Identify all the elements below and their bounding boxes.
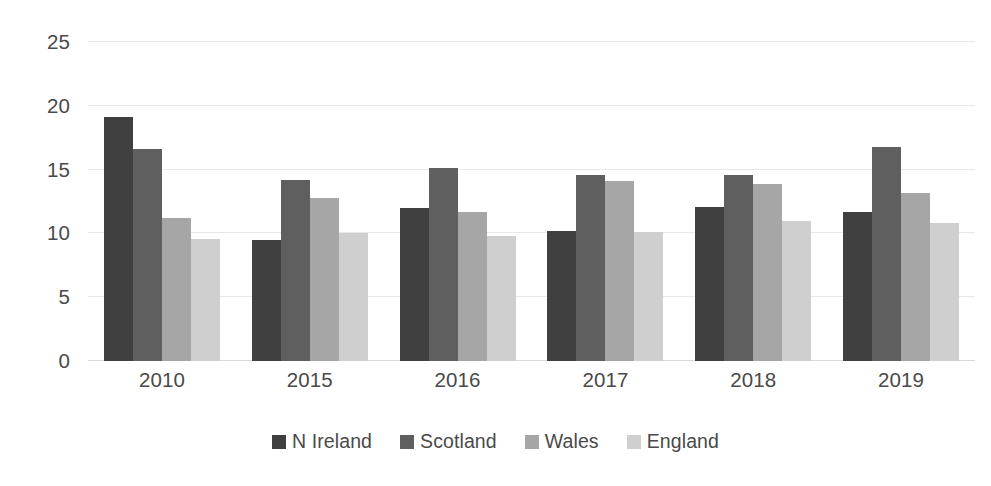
bar-england-2017[interactable] bbox=[634, 232, 663, 361]
legend-item-scotland[interactable]: Scotland bbox=[400, 430, 497, 453]
legend-label: N Ireland bbox=[292, 430, 372, 453]
bar-n-ireland-2016[interactable] bbox=[400, 208, 429, 361]
y-axis: 0510152025 bbox=[0, 0, 88, 486]
legend-label: Scotland bbox=[420, 430, 497, 453]
bar-n-ireland-2015[interactable] bbox=[252, 240, 281, 361]
x-tick-label-2018: 2018 bbox=[679, 368, 827, 408]
bar-group-2018 bbox=[679, 42, 827, 361]
bar-england-2010[interactable] bbox=[191, 239, 220, 361]
bar-group-2019 bbox=[827, 42, 975, 361]
bar-groups bbox=[88, 42, 975, 361]
bar-group-2016 bbox=[384, 42, 532, 361]
bar-wales-2019[interactable] bbox=[901, 193, 930, 361]
bar-scotland-2015[interactable] bbox=[281, 180, 310, 361]
bar-slots bbox=[679, 42, 827, 361]
x-axis: 201020152016201720182019 bbox=[88, 368, 975, 408]
x-tick-label-2019: 2019 bbox=[827, 368, 975, 408]
bar-slots bbox=[384, 42, 532, 361]
y-tick-label-15: 15 bbox=[47, 158, 70, 182]
legend-item-wales[interactable]: Wales bbox=[525, 430, 599, 453]
legend-swatch-icon bbox=[272, 435, 286, 449]
bar-slots bbox=[531, 42, 679, 361]
plot-area bbox=[88, 42, 975, 361]
legend-item-n-ireland[interactable]: N Ireland bbox=[272, 430, 372, 453]
chart-legend: N IrelandScotlandWalesEngland bbox=[0, 430, 991, 453]
bar-wales-2018[interactable] bbox=[753, 184, 782, 361]
legend-item-england[interactable]: England bbox=[627, 430, 719, 453]
bar-group-2015 bbox=[236, 42, 384, 361]
y-tick-label-10: 10 bbox=[47, 221, 70, 245]
bar-chart: 0510152025 201020152016201720182019 N Ir… bbox=[0, 0, 991, 486]
bar-scotland-2016[interactable] bbox=[429, 168, 458, 361]
bar-scotland-2017[interactable] bbox=[576, 175, 605, 361]
bar-wales-2017[interactable] bbox=[605, 181, 634, 361]
bar-england-2019[interactable] bbox=[930, 223, 959, 361]
bar-n-ireland-2019[interactable] bbox=[843, 212, 872, 361]
bar-slots bbox=[88, 42, 236, 361]
bar-wales-2010[interactable] bbox=[162, 218, 191, 361]
x-tick-label-2010: 2010 bbox=[88, 368, 236, 408]
x-tick-label-2017: 2017 bbox=[531, 368, 679, 408]
legend-label: Wales bbox=[545, 430, 599, 453]
bar-scotland-2018[interactable] bbox=[724, 175, 753, 361]
legend-label: England bbox=[647, 430, 719, 453]
y-tick-label-20: 20 bbox=[47, 94, 70, 118]
bar-n-ireland-2017[interactable] bbox=[547, 231, 576, 361]
bar-wales-2015[interactable] bbox=[310, 198, 339, 361]
legend-swatch-icon bbox=[525, 435, 539, 449]
bar-group-2017 bbox=[531, 42, 679, 361]
bar-england-2016[interactable] bbox=[487, 236, 516, 361]
y-tick-label-5: 5 bbox=[58, 285, 70, 309]
y-tick-label-25: 25 bbox=[47, 30, 70, 54]
bar-scotland-2019[interactable] bbox=[872, 147, 901, 361]
bar-england-2018[interactable] bbox=[782, 221, 811, 361]
y-tick-label-0: 0 bbox=[58, 349, 70, 373]
legend-swatch-icon bbox=[627, 435, 641, 449]
bar-slots bbox=[236, 42, 384, 361]
bar-n-ireland-2018[interactable] bbox=[695, 207, 724, 361]
bar-slots bbox=[827, 42, 975, 361]
legend-swatch-icon bbox=[400, 435, 414, 449]
bar-n-ireland-2010[interactable] bbox=[104, 117, 133, 361]
bar-group-2010 bbox=[88, 42, 236, 361]
bar-england-2015[interactable] bbox=[339, 233, 368, 361]
bar-scotland-2010[interactable] bbox=[133, 149, 162, 361]
x-tick-label-2015: 2015 bbox=[236, 368, 384, 408]
x-tick-label-2016: 2016 bbox=[384, 368, 532, 408]
bar-wales-2016[interactable] bbox=[458, 212, 487, 361]
